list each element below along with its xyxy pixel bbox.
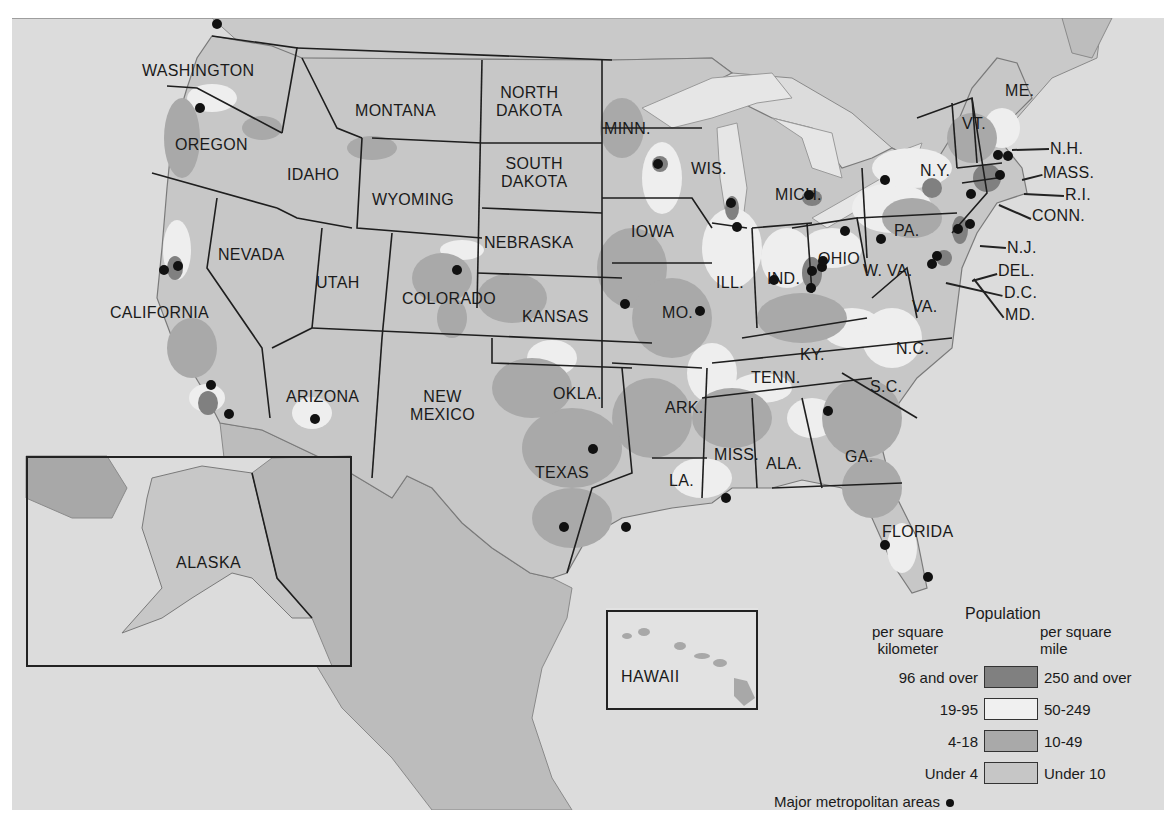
state-callout-label: DEL. bbox=[998, 262, 1035, 280]
state-label: ME. bbox=[1005, 82, 1034, 100]
state-label: N.C. bbox=[896, 340, 929, 358]
state-callout-label: N.J. bbox=[1007, 239, 1037, 257]
state-label: NEBRASKA bbox=[484, 234, 574, 252]
metro-area-dot-icon bbox=[224, 409, 234, 419]
legend-mile-value: 50-249 bbox=[1044, 701, 1091, 718]
state-label: OREGON bbox=[175, 136, 248, 154]
legend-right-header: per square mile bbox=[1040, 623, 1112, 657]
legend-swatch bbox=[984, 698, 1038, 720]
legend-mile-value: 250 and over bbox=[1044, 669, 1132, 686]
state-label: MISS. bbox=[714, 446, 759, 464]
metro-area-dot-icon bbox=[923, 572, 933, 582]
metro-area-dot-icon bbox=[452, 265, 462, 275]
state-label: WASHINGTON bbox=[142, 62, 254, 80]
population-density-map: WASHINGTONOREGONCALIFORNIANEVADAIDAHOMON… bbox=[12, 18, 1164, 810]
metro-area-dot-icon bbox=[769, 275, 779, 285]
metro-dot-icon bbox=[946, 799, 954, 807]
state-label: IOWA bbox=[631, 223, 674, 241]
state-label: N.Y. bbox=[920, 162, 950, 180]
state-label: NEW MEXICO bbox=[410, 388, 475, 424]
state-callout-label: MASS. bbox=[1043, 164, 1094, 182]
legend-row-4-18: 4-18 10-49 bbox=[862, 730, 1164, 754]
metro-area-dot-icon bbox=[310, 414, 320, 424]
metro-area-dot-icon bbox=[621, 522, 631, 532]
state-label: NORTH DAKOTA bbox=[496, 84, 562, 120]
state-label: MO. bbox=[662, 304, 693, 322]
state-label: COLORADO bbox=[402, 290, 496, 308]
state-label: FLORIDA bbox=[882, 523, 953, 541]
state-label: LA. bbox=[669, 472, 694, 490]
metro-area-dot-icon bbox=[927, 259, 937, 269]
metro-area-dot-icon bbox=[159, 265, 169, 275]
state-label: VT. bbox=[962, 115, 986, 133]
metro-area-dot-icon bbox=[206, 380, 216, 390]
metro-area-dot-icon bbox=[993, 150, 1003, 160]
state-label: KANSAS bbox=[522, 308, 589, 326]
state-callout-label: MD. bbox=[1005, 306, 1035, 324]
legend-row-under-4: Under 4 Under 10 bbox=[862, 762, 1164, 786]
legend-km-value: Under 4 bbox=[925, 765, 978, 782]
state-label: ILL. bbox=[716, 274, 744, 292]
state-label: OKLA. bbox=[553, 385, 602, 403]
state-label: CALIFORNIA bbox=[110, 304, 209, 322]
state-label: ALA. bbox=[766, 455, 802, 473]
state-label: UTAH bbox=[316, 274, 360, 292]
metro-area-dot-icon bbox=[804, 190, 814, 200]
alaska-label: ALASKA bbox=[176, 554, 241, 572]
state-label: SOUTH DAKOTA bbox=[501, 155, 567, 191]
state-label: WYOMING bbox=[372, 191, 454, 209]
metro-area-dot-icon bbox=[620, 299, 630, 309]
metro-area-dot-icon bbox=[173, 261, 183, 271]
metro-area-dot-icon bbox=[732, 222, 742, 232]
alaska-inset: ALASKA bbox=[26, 456, 352, 667]
metro-area-dot-icon bbox=[818, 256, 828, 266]
state-label: IDAHO bbox=[287, 166, 339, 184]
legend-swatch bbox=[984, 730, 1038, 752]
metro-area-dot-icon bbox=[880, 540, 890, 550]
state-label: NEVADA bbox=[218, 246, 284, 264]
metro-area-dot-icon bbox=[880, 175, 890, 185]
legend-row-96-over: 96 and over 250 and over bbox=[862, 666, 1164, 690]
state-label: PA. bbox=[894, 222, 920, 240]
metro-area-dot-icon bbox=[195, 103, 205, 113]
metro-area-dot-icon bbox=[588, 444, 598, 454]
metro-area-dot-icon bbox=[1003, 151, 1013, 161]
state-callout-label: CONN. bbox=[1032, 207, 1085, 225]
metro-area-dot-icon bbox=[695, 306, 705, 316]
legend-metro-label: Major metropolitan areas bbox=[774, 793, 940, 810]
metro-area-dot-icon bbox=[965, 219, 975, 229]
state-label: GA. bbox=[845, 448, 873, 466]
legend-swatch bbox=[984, 762, 1038, 784]
legend-km-value: 19-95 bbox=[940, 701, 978, 718]
metro-area-dot-icon bbox=[823, 406, 833, 416]
state-label: ARIZONA bbox=[286, 388, 359, 406]
state-callout-label: N.H. bbox=[1050, 140, 1083, 158]
hawaii-label: HAWAII bbox=[621, 668, 680, 686]
metro-area-dot-icon bbox=[876, 234, 886, 244]
state-label: WIS. bbox=[691, 160, 727, 178]
state-label: S.C. bbox=[870, 378, 902, 396]
metro-area-dot-icon bbox=[559, 522, 569, 532]
legend-km-value: 96 and over bbox=[899, 669, 978, 686]
legend-km-value: 4-18 bbox=[948, 733, 978, 750]
state-label: MICH. bbox=[775, 186, 822, 204]
metro-area-dot-icon bbox=[721, 493, 731, 503]
metro-area-dot-icon bbox=[807, 266, 817, 276]
metro-area-dot-icon bbox=[726, 198, 736, 208]
legend-mile-value: 10-49 bbox=[1044, 733, 1082, 750]
legend-left-header: per square kilometer bbox=[872, 623, 944, 657]
state-label: ARK. bbox=[665, 399, 704, 417]
hawaii-inset: HAWAII bbox=[606, 610, 758, 710]
metro-area-dot-icon bbox=[995, 170, 1005, 180]
state-label: KY. bbox=[800, 346, 825, 364]
state-label: TENN. bbox=[751, 369, 801, 387]
legend-mile-value: Under 10 bbox=[1044, 765, 1106, 782]
metro-area-dot-icon bbox=[840, 226, 850, 236]
state-label: TEXAS bbox=[535, 464, 589, 482]
state-label: W. VA. bbox=[863, 262, 913, 280]
metro-area-dot-icon bbox=[212, 19, 222, 29]
legend-swatch bbox=[984, 666, 1038, 688]
state-label: VA. bbox=[912, 298, 938, 316]
metro-area-dot-icon bbox=[966, 189, 976, 199]
metro-area-dot-icon bbox=[653, 159, 663, 169]
